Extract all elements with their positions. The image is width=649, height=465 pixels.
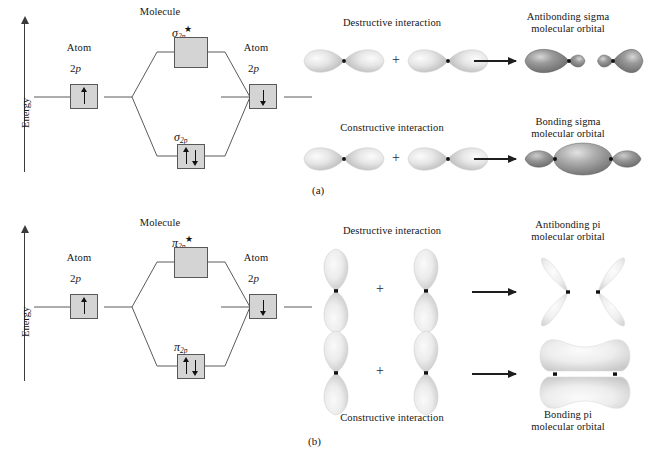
spin-up-arrow: [81, 298, 88, 315]
pi-destructive-plus: +: [376, 281, 384, 297]
spin-down-arrow: [260, 88, 267, 105]
bonding-pi-level-label: π2p: [174, 340, 188, 355]
right-atom-term-b: 2p: [248, 272, 259, 284]
left-atom-term-a: 2p: [70, 62, 81, 74]
spin-down-arrow: [260, 298, 267, 315]
antibonding-pi-level-box: [174, 247, 208, 278]
left-atom-level-box-b: [70, 294, 98, 319]
right-atom-level-box-a: [249, 84, 277, 109]
pi-constructive-arrow: [472, 373, 516, 375]
sigma-constructive-arrow: [474, 158, 516, 160]
spin-down-arrow: [192, 358, 199, 375]
spin-up-arrow: [183, 148, 190, 165]
sigma-constructive-plus: +: [392, 150, 400, 166]
energy-level-lines-a: [0, 0, 290, 212]
antibonding-pi-orbital: [528, 251, 638, 333]
antibonding-sigma-result-label: Antibonding sigma molecular orbital: [498, 11, 638, 35]
p-orbital-vertical-input-1: [318, 246, 354, 336]
antibonding-pi-result-label: Antibonding pi molecular orbital: [498, 219, 638, 243]
p-orbital-horizontal-input-3: [302, 142, 386, 176]
panel-a-caption: (a): [312, 184, 324, 196]
left-atom-title-b: Atom: [54, 252, 104, 264]
p-orbital-horizontal-input-1: [302, 44, 386, 78]
spin-down-arrow: [192, 148, 199, 165]
sigma-destructive-arrow: [474, 60, 516, 62]
bonding-sigma-level-label: σ2p: [174, 130, 187, 145]
left-atom-term-b: 2p: [70, 272, 81, 284]
right-atom-title-b: Atom: [231, 252, 281, 264]
pi-destructive-interaction-label: Destructive interaction: [322, 225, 462, 237]
panel-b-pi: Energy Molecule Atom: [0, 213, 649, 465]
left-atom-level-box-a: [70, 84, 98, 109]
molecular-orbital-figure: Energy Molecule: [0, 0, 649, 465]
right-atom-term-a: 2p: [248, 62, 259, 74]
energy-level-lines-b: [0, 213, 290, 465]
right-atom-level-box-b: [249, 294, 277, 319]
p-orbital-vertical-input-4: [408, 328, 444, 418]
sigma-destructive-plus: +: [392, 52, 400, 68]
antibonding-sigma-level-box: [174, 37, 208, 68]
panel-b-caption: (b): [308, 435, 321, 447]
sigma-destructive-interaction-label: Destructive interaction: [322, 17, 462, 29]
bonding-sigma-level-box: [177, 144, 205, 169]
bonding-sigma-orbital: [520, 136, 646, 182]
p-orbital-vertical-input-2: [408, 246, 444, 336]
spin-up-arrow: [183, 358, 190, 375]
right-atom-title-a: Atom: [231, 42, 281, 54]
left-atom-title-a: Atom: [54, 42, 104, 54]
p-orbital-vertical-input-3: [318, 328, 354, 418]
panel-a-sigma: Energy Molecule: [0, 0, 649, 212]
bonding-pi-level-box: [177, 354, 205, 379]
sigma-constructive-interaction-label: Constructive interaction: [322, 122, 462, 134]
bonding-pi-orbital: [534, 333, 636, 415]
antibonding-sigma-orbital: [522, 44, 646, 78]
pi-constructive-plus: +: [376, 363, 384, 379]
spin-up-arrow: [81, 88, 88, 105]
pi-destructive-arrow: [472, 291, 516, 293]
